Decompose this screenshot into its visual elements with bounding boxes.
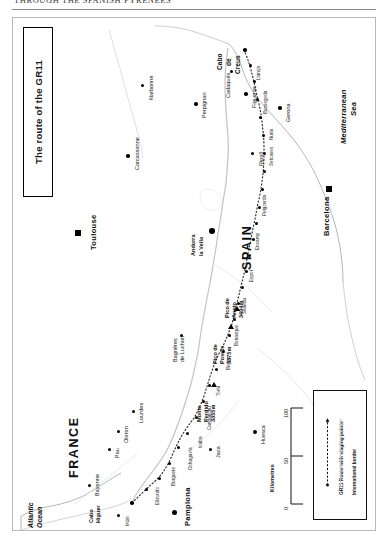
city-label: Cadaqués [226,73,232,98]
pico-de-posets-triangle-icon [228,324,234,329]
city-label: Lourdes [139,403,145,423]
peak-name-line1: Pico de [224,298,230,318]
city-marker-dot [278,106,282,110]
peak-name-line2: Posets [219,346,225,364]
city-label: Perpignan [202,93,208,118]
scale-tick-0: 0 [283,507,289,510]
city-label: Ripoll [259,152,265,166]
peak-name-line1: Monte [196,406,202,422]
water-label-line2: Ocean [36,507,44,528]
city-marker-dot [253,430,257,434]
scale-tick-100: 100 [283,409,289,418]
city-label-line2: la Vella [199,237,205,256]
water-label-line1: Atlantic [27,502,35,528]
city-label: Pau [115,448,121,458]
country-label-spain: SPAIN [241,225,255,270]
city-label: Bayonne [95,474,101,496]
city-marker-dot [172,510,177,515]
city-marker-square [75,230,81,236]
country-label-france: FRANCE [68,416,82,478]
map-canvas: Elizondo Burguete Ochagavía Isaba Candan… [13,18,375,530]
scale-tick-50: 50 [283,458,289,464]
city-label: Barcelona [323,197,331,236]
peak-height: 3375m [226,347,232,364]
legend-label: International border [352,449,357,495]
city-marker-dot [244,92,248,96]
map-title: The route of the GR11 [33,60,44,164]
peak-name-line2: Aneto [231,302,237,318]
city-label: Figueras [252,86,258,108]
city-label-line1: Andorra [191,234,197,256]
scale-bar: 0 50 100 Kilometres [261,400,307,516]
running-head: THROUGH THE SPANISH PYRENEES [0,0,389,12]
city-marker-dot [126,154,130,158]
city-label: Toulouse [90,214,98,250]
city-label: Narbonne [149,76,155,100]
city-label-line1: Bagnères [173,338,179,362]
city-marker-dot [194,102,198,106]
peak-height: 3355m [210,405,216,422]
running-head-text: THROUGH THE SPANISH PYRENEES [14,0,171,5]
cape-label-line1: Cabo [216,54,223,70]
map-title-box: The route of the GR11 [23,27,53,197]
cape-label-line3: Creus [234,55,241,74]
city-label: Gerona [286,103,292,122]
monte-perdido-triangle-icon [211,382,217,387]
peak-name-line2: Perdido [203,401,209,422]
water-label-line2: Sea [350,102,358,116]
city-label: Irún [125,516,131,526]
city-label: Jaca [216,446,222,458]
peak-height: 3404m [238,301,244,318]
map-figure: Elizondo Burguete Ochagavía Isaba Candan… [12,17,376,531]
peak-name-line1: Pico de [212,344,218,364]
running-head-rule [12,9,376,10]
city-marker-square [326,186,332,192]
city-label: Oloron [124,426,130,443]
cape-label-line2: de [225,58,232,66]
border-line-icon [336,417,345,489]
city-label: Pamplona [184,487,192,526]
water-label-line1: Mediterranean [340,89,348,144]
city-marker-dot [209,228,215,234]
city-label: Carcassonne [135,137,141,170]
cape-label-line1: Cabo [89,509,95,523]
scale-unit-label: Kilometres [269,464,275,492]
cape-label-line2: Higuer [96,505,102,523]
city-label-line2: de Luchon [180,336,186,362]
dotted-route-line-icon [323,417,332,489]
map-legend: GR11 Route with staging points Internati… [313,390,367,520]
